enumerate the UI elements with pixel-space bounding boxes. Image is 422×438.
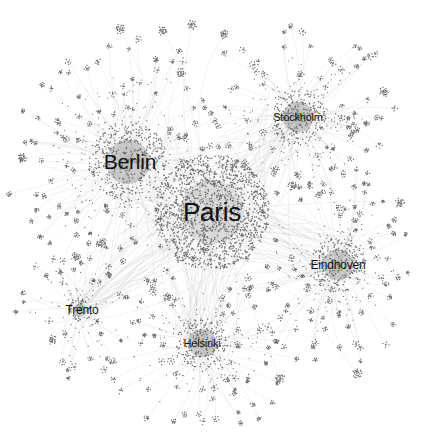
graph-nodes: [6, 20, 410, 426]
hub-core-eindhoven: [323, 250, 354, 281]
network-graph-canvas: [0, 0, 422, 438]
hub-core-helsinki: [188, 329, 217, 358]
